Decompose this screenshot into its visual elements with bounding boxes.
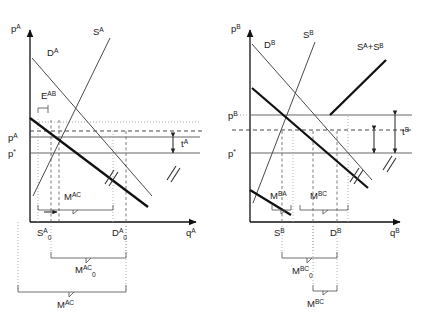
- brace-label-mbc-zero: MBC0: [292, 265, 313, 279]
- brace-mac-inner: [38, 205, 113, 214]
- brace-label-mac-inner: MAC: [64, 191, 81, 203]
- hatch-mark-a2: [167, 166, 180, 182]
- brace-mac-outer: [18, 285, 126, 297]
- supply-label-a: SA: [93, 26, 104, 38]
- demand-quantity-label-a0: DA0: [112, 227, 127, 241]
- trade-diagram-figure: pA qA DA SA EAB pA p* tA SA0 DA0 MA: [0, 0, 422, 316]
- demand-quantity-label-b: DB: [330, 227, 342, 239]
- combined-supply-curve-ab: [330, 60, 386, 115]
- tariff-label-b: tB: [402, 126, 410, 138]
- panel-a: pA qA DA SA EAB pA p* tA SA0 DA0 MA: [8, 23, 204, 311]
- supply-quantity-label-b: SB: [274, 227, 285, 239]
- excess-demand-label-ab: EAB: [41, 90, 57, 102]
- world-price-label-b: p*: [228, 148, 236, 160]
- excess-demand-curve-b: [252, 88, 368, 188]
- brace-eab: [38, 105, 48, 113]
- brace-mbc-zero: [282, 252, 337, 263]
- supply-curve-b: [253, 42, 315, 203]
- brace-label-mbc-outer: MBC: [307, 298, 324, 310]
- combined-supply-label-ab: Sᴬ+Sᴮ: [357, 41, 384, 52]
- x-axis-label-a: qA: [186, 227, 196, 239]
- supply-label-b: SB: [303, 29, 314, 41]
- brace-label-mbc-inner: MBC: [310, 190, 327, 202]
- x-axis-label-b: qB: [390, 227, 400, 239]
- brace-label-mac-outer: MAC: [57, 299, 74, 311]
- price-label-a: pA: [8, 132, 18, 144]
- brace-mbc-outer: [313, 285, 337, 295]
- demand-label-a: DA: [47, 47, 59, 59]
- brace-mac-zero: [51, 252, 126, 263]
- supply-quantity-label-a0: SA0: [37, 227, 52, 241]
- demand-label-b: DB: [264, 39, 276, 51]
- panel-b: pB qB DB SB Sᴬ+Sᴮ pB p* tB SB DB MBA: [228, 23, 412, 310]
- hatch-mark-b2: [383, 156, 396, 172]
- brace-mbc-inner: [300, 205, 348, 214]
- y-axis-label-b: pB: [231, 23, 241, 35]
- brace-label-mba: MBA: [270, 190, 287, 202]
- tariff-label-a: tA: [181, 138, 189, 150]
- y-axis-label-a: pA: [11, 23, 21, 35]
- diagram-canvas: pA qA DA SA EAB pA p* tA SA0 DA0 MA: [0, 0, 422, 316]
- demand-curve-a: [32, 58, 152, 196]
- supply-curve-a: [33, 38, 110, 196]
- price-label-b: pB: [228, 110, 238, 122]
- world-price-label-a: p*: [8, 148, 16, 160]
- brace-label-mac-zero: MAC0: [75, 264, 96, 278]
